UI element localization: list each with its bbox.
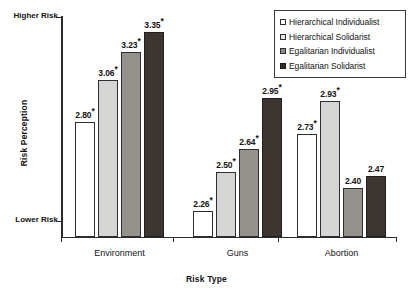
bar-value-label: 3.23* — [121, 40, 140, 50]
bar-slot: 2.80* — [75, 16, 95, 237]
legend-item-egalitarian-individualist[interactable]: Egalitarian Individualist — [280, 44, 401, 59]
bar-value-label: 3.35* — [144, 20, 163, 30]
bar-guns-1[interactable] — [216, 172, 236, 237]
legend: Hierarchical Individualist Hierarchical … — [274, 10, 406, 78]
bar-slot: 2.64* — [239, 16, 259, 237]
bar-group-environment: 2.80*3.06*3.23*3.35* — [75, 16, 164, 237]
y-tick-label-lower-risk: Lower Risk — [2, 215, 58, 224]
legend-label: Hierarchical Individualist — [289, 17, 379, 27]
bar-environment-0[interactable] — [75, 122, 95, 237]
legend-swatch-icon-hierarchical-solidarist — [280, 34, 286, 40]
bar-abortion-3[interactable] — [366, 176, 386, 237]
bar-value-label: 2.64* — [239, 137, 258, 147]
x-axis-line — [61, 237, 397, 238]
bar-value-label: 2.50* — [216, 160, 235, 170]
x-tick-mark-0 — [61, 237, 62, 242]
x-axis-label-environment: Environment — [70, 248, 170, 258]
legend-label: Egalitarian Individualist — [289, 46, 375, 56]
x-tick-mark-1 — [173, 237, 174, 242]
legend-swatch-icon-egalitarian-solidarist — [280, 63, 286, 69]
x-tick-mark-2 — [278, 237, 279, 242]
x-axis-label-abortion: Abortion — [292, 248, 392, 258]
bar-value-label: 2.93* — [320, 89, 339, 99]
bar-abortion-2[interactable] — [343, 188, 363, 237]
legend-swatch-icon-egalitarian-individualist — [280, 48, 286, 54]
bar-value-label: 2.40 — [345, 176, 361, 186]
x-tick-mark-3 — [396, 237, 397, 242]
bar-group-guns: 2.26*2.50*2.64*2.95* — [193, 16, 282, 237]
bar-slot: 3.35* — [144, 16, 164, 237]
bar-value-label: 2.95* — [262, 86, 281, 96]
y-axis-title: Risk Perception — [19, 78, 29, 188]
legend-label: Hierarchical Solidarist — [289, 32, 370, 42]
bar-abortion-0[interactable] — [297, 134, 317, 237]
bar-value-label: 2.73* — [297, 122, 316, 132]
bar-environment-1[interactable] — [98, 80, 118, 237]
bar-environment-2[interactable] — [121, 52, 141, 237]
risk-perception-bar-chart: Risk Perception Higher Risk Lower Risk 2… — [0, 0, 413, 293]
bar-value-label: 2.26* — [193, 199, 212, 209]
legend-swatch-icon-hierarchical-individualist — [280, 19, 286, 25]
bar-slot: 3.06* — [98, 16, 118, 237]
bar-value-label: 3.06* — [98, 68, 117, 78]
bar-guns-3[interactable] — [262, 98, 282, 237]
legend-item-hierarchical-solidarist[interactable]: Hierarchical Solidarist — [280, 30, 401, 45]
y-tick-label-higher-risk: Higher Risk — [2, 11, 58, 20]
bar-value-label: 2.80* — [75, 110, 94, 120]
x-axis-label-guns: Guns — [188, 248, 288, 258]
bar-environment-3[interactable] — [144, 32, 164, 237]
legend-label: Egalitarian Solidarist — [289, 61, 365, 71]
x-axis-title: Risk Type — [0, 274, 413, 284]
bar-guns-2[interactable] — [239, 149, 259, 237]
bar-slot: 2.50* — [216, 16, 236, 237]
bar-value-label: 2.47 — [368, 164, 384, 174]
bar-guns-0[interactable] — [193, 211, 213, 237]
bar-slot: 3.23* — [121, 16, 141, 237]
legend-item-egalitarian-solidarist[interactable]: Egalitarian Solidarist — [280, 59, 401, 74]
bar-abortion-1[interactable] — [320, 101, 340, 237]
legend-item-hierarchical-individualist[interactable]: Hierarchical Individualist — [280, 15, 401, 30]
bar-slot: 2.26* — [193, 16, 213, 237]
